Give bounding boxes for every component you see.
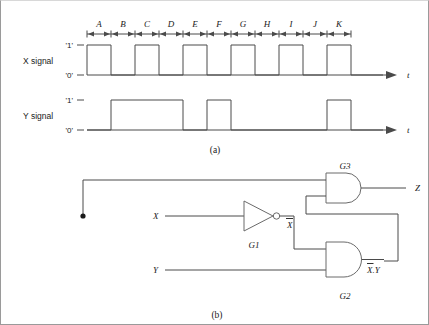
panel-b-caption: (b) <box>211 310 222 321</box>
circuit-diagram-panel: G3 Z X G1 X Y G2 X.Y <box>1 156 429 325</box>
x-level-high-label: '1' <box>65 41 73 50</box>
x-level-low-label: '0' <box>65 71 73 80</box>
interval-label-H: H <box>263 19 271 29</box>
interval-label-K: K <box>335 19 343 29</box>
interval-labels: A B C D E F G H I J K <box>95 19 343 29</box>
interval-label-B: B <box>120 19 126 29</box>
interval-label-F: F <box>215 19 222 29</box>
interval-label-E: E <box>191 19 198 29</box>
x-signal-waveform <box>87 45 383 75</box>
junction-dot-x <box>80 213 85 218</box>
interval-label-J: J <box>313 19 318 29</box>
interval-label-G: G <box>240 19 247 29</box>
x-axis-arrowhead <box>386 71 397 79</box>
x-time-axis-label: t <box>407 70 410 80</box>
y-time-axis-label: t <box>407 125 410 135</box>
interval-rulers <box>87 31 351 38</box>
interval-label-I: I <box>289 19 294 29</box>
gate-G1-body <box>244 201 273 231</box>
panel-a-caption: (a) <box>210 145 221 156</box>
input-label-Y: Y <box>153 265 159 275</box>
x-level-ticks <box>77 45 84 75</box>
node-label-xbar: X <box>286 219 293 231</box>
gate-G3-body <box>326 173 361 203</box>
gate-label-G1: G1 <box>249 240 260 250</box>
wire-G2-to-G3 <box>306 196 398 261</box>
output-label-Z: Z <box>415 183 421 193</box>
input-label-X: X <box>152 211 159 221</box>
gate-label-G3: G3 <box>340 161 351 171</box>
interval-label-D: D <box>167 19 175 29</box>
gate-G2-body <box>326 242 362 277</box>
node-label-xbar-y-text: X.Y <box>366 265 381 275</box>
y-level-low-label: '0' <box>65 126 73 135</box>
interval-label-C: C <box>144 19 151 29</box>
figure-container: A B C D E F G H I J K <box>0 0 429 325</box>
x-signal-label: X signal <box>23 56 53 66</box>
node-label-xbar-text: X <box>286 220 293 230</box>
gate-label-G2: G2 <box>340 291 351 301</box>
interval-label-A: A <box>95 19 102 29</box>
gate-G1-bubble-icon <box>273 213 279 219</box>
y-axis-arrowhead <box>386 126 397 134</box>
y-signal-label: Y signal <box>23 111 53 121</box>
timing-diagram-panel: A B C D E F G H I J K <box>1 1 429 161</box>
y-signal-waveform <box>87 100 383 130</box>
y-level-high-label: '1' <box>65 96 73 105</box>
node-label-xbar-y: X.Y <box>366 264 381 276</box>
y-level-ticks <box>77 100 84 130</box>
